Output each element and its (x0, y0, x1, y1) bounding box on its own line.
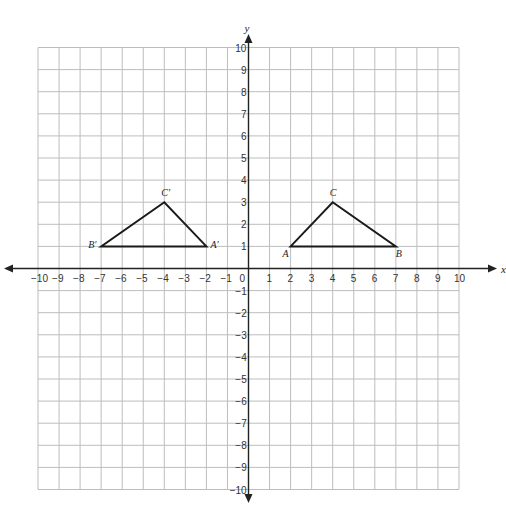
vertex-label-b: B (396, 248, 402, 259)
y-tick-label: 4 (241, 175, 247, 186)
y-tick-label: 10 (235, 43, 247, 54)
x-axis-left-arrow-icon (4, 265, 13, 273)
x-tick-label: 5 (351, 273, 357, 284)
vertex-label-a: A (282, 248, 290, 259)
y-tick-label: 8 (241, 87, 247, 98)
x-tick-label: 6 (372, 273, 378, 284)
y-tick-label: 1 (241, 241, 247, 252)
y-tick-label: −9 (235, 462, 247, 473)
y-tick-label: −3 (235, 330, 247, 341)
y-tick-label: 6 (241, 131, 247, 142)
y-tick-label: −2 (235, 308, 247, 319)
y-tick-label: −5 (235, 374, 247, 385)
axes: xy (4, 22, 506, 503)
coordinate-plane: xy −10−9−8−7−6−5−4−3−2−112345678910−10−9… (0, 0, 506, 519)
x-axis-label: x (500, 263, 506, 275)
x-tick-label: 10 (454, 273, 466, 284)
y-tick-label: −8 (235, 440, 247, 451)
x-tick-label: −2 (199, 273, 211, 284)
y-tick-label: −1 (235, 286, 247, 297)
x-tick-label: −5 (136, 273, 148, 284)
vertex-label-c: C (330, 187, 337, 198)
vertex-label-c-prime: C′ (161, 187, 171, 198)
x-tick-label: −6 (115, 273, 127, 284)
y-tick-label: −6 (235, 396, 247, 407)
x-tick-label: −9 (52, 273, 64, 284)
y-axis-label: y (244, 22, 250, 34)
x-tick-label: 4 (330, 273, 336, 284)
y-tick-label: 7 (241, 109, 247, 120)
x-tick-label: 2 (288, 273, 294, 284)
x-tick-label: −3 (178, 273, 190, 284)
y-tick-label: −4 (235, 352, 247, 363)
y-tick-label: 3 (241, 197, 247, 208)
x-tick-label: 8 (414, 273, 420, 284)
y-tick-label: −7 (235, 418, 247, 429)
x-tick-label: 7 (393, 273, 399, 284)
y-tick-label: 5 (241, 153, 247, 164)
x-tick-label: −8 (73, 273, 85, 284)
x-axis-right-arrow-icon (488, 265, 497, 273)
x-tick-label: −1 (220, 273, 232, 284)
y-tick-label: 2 (241, 219, 247, 230)
x-tick-label: 3 (309, 273, 315, 284)
origin-label: 0 (240, 273, 246, 284)
x-tick-label: −10 (31, 273, 48, 284)
x-tick-label: −4 (157, 273, 169, 284)
x-tick-label: 9 (435, 273, 441, 284)
y-tick-label: 9 (241, 65, 247, 76)
vertex-label-b-prime: B′ (88, 239, 97, 250)
x-tick-label: −7 (94, 273, 106, 284)
vertex-label-a-prime: A′ (209, 239, 219, 250)
y-tick-label: −10 (230, 485, 247, 496)
x-tick-label: 1 (267, 273, 273, 284)
